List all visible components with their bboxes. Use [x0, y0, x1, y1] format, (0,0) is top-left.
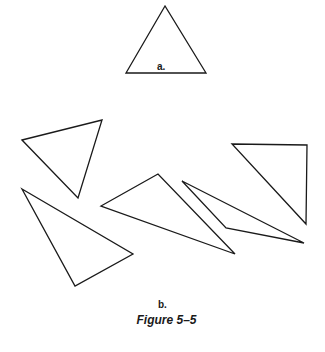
figure-caption: Figure 5–5 — [0, 313, 325, 327]
triangle-a-equilateral — [126, 6, 206, 73]
triangle-b-1 — [22, 120, 102, 198]
label-part-a: a. — [157, 61, 165, 72]
triangle-b-2 — [22, 189, 133, 286]
triangles-b-group — [22, 120, 307, 286]
triangle-b-4 — [182, 181, 304, 243]
triangle-b-3 — [101, 174, 235, 254]
label-part-b: b. — [158, 299, 167, 310]
